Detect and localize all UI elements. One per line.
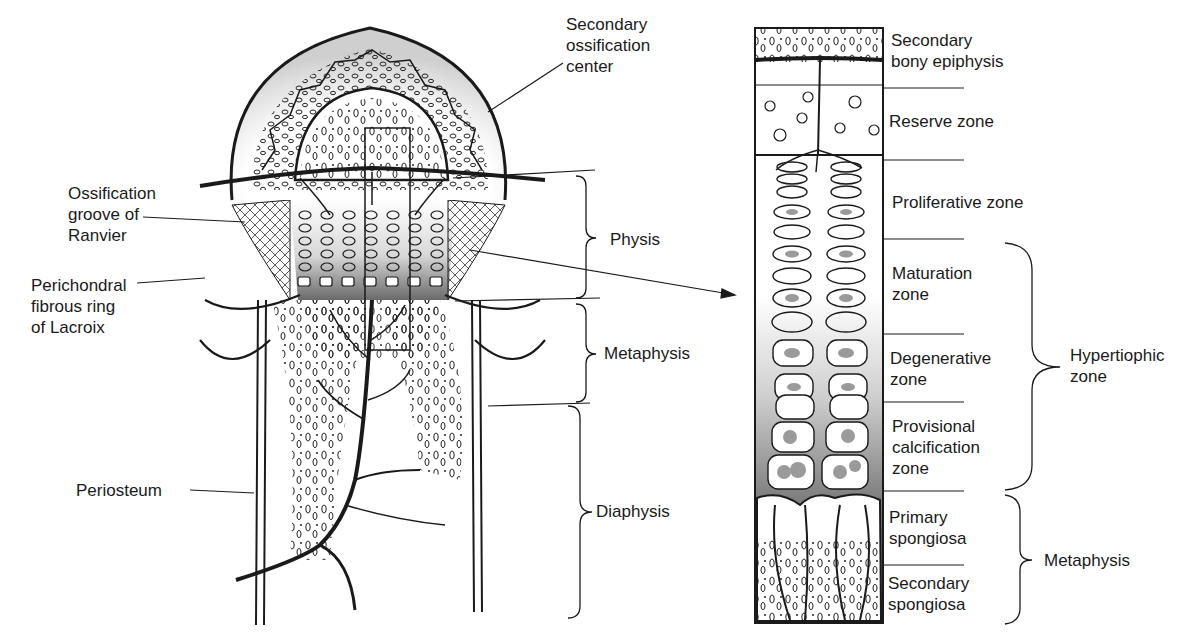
label-degenerative-zone: Degenerative zone bbox=[890, 348, 991, 390]
zone-dividers bbox=[883, 88, 964, 565]
label-secondary-bony-epiphysis: Secondary bony epiphysis bbox=[891, 30, 1003, 72]
growth-plate-column bbox=[755, 28, 883, 623]
label-proliferative-zone: Proliferative zone bbox=[892, 192, 1023, 213]
braces-left bbox=[568, 176, 596, 618]
label-ossification-groove-of-ranvier: Ossification groove of Ranvier bbox=[68, 183, 156, 246]
label-reserve-zone: Reserve zone bbox=[889, 111, 994, 132]
label-secondary-spongiosa: Secondary spongiosa bbox=[888, 573, 969, 615]
label-periosteum: Periosteum bbox=[76, 480, 162, 501]
label-secondary-ossification-center: Secondary ossification center bbox=[566, 14, 650, 77]
growth-plate-illustration bbox=[0, 0, 1204, 644]
label-maturation-zone: Maturation zone bbox=[892, 263, 972, 305]
label-primary-spongiosa: Primary spongiosa bbox=[889, 507, 967, 549]
label-provisional-calcification-zone: Provisional calcification zone bbox=[892, 416, 980, 479]
label-perichondral-fibrous-ring: Perichondral fibrous ring of Lacroix bbox=[31, 275, 126, 338]
label-physis: Physis bbox=[610, 229, 660, 250]
label-hypertrophic-zone: Hypertiophic zone bbox=[1070, 345, 1165, 387]
bone-end-drawing bbox=[200, 28, 545, 625]
label-metaphysis-right: Metaphysis bbox=[1044, 550, 1130, 571]
label-diaphysis: Diaphysis bbox=[596, 501, 670, 522]
label-metaphysis-left: Metaphysis bbox=[604, 343, 690, 364]
